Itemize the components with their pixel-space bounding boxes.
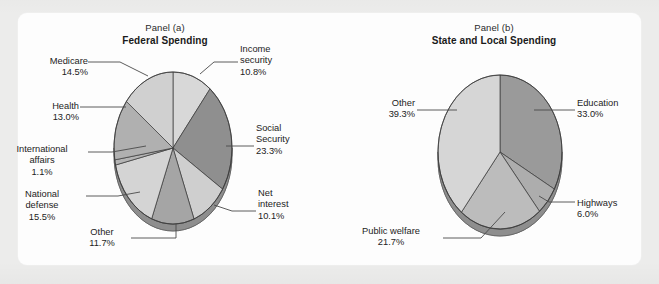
label-social-security: Social Security 23.3%: [256, 123, 328, 157]
label-income-security: Income security 10.8%: [240, 44, 326, 78]
label-education: Education 33.0%: [577, 98, 657, 121]
label-international-affairs: International affairs 1.1%: [0, 144, 86, 178]
label-other-state: Other 39.3%: [343, 98, 415, 121]
label-public-welfare: Public welfare 21.7%: [339, 226, 443, 249]
label-net-interest: Net interest 10.1%: [258, 188, 328, 222]
panel-state-local-spending: Panel (b) State and Local Spending Other…: [329, 0, 659, 284]
label-national-defense: National defense 15.5%: [0, 189, 84, 223]
label-highways: Highways 6.0%: [577, 198, 657, 221]
label-other-federal: Other 11.7%: [74, 227, 130, 250]
panel-federal-spending: Panel (a) Federal Spending Medicare 14.5…: [0, 0, 330, 284]
label-medicare: Medicare 14.5%: [2, 56, 88, 79]
label-health: Health 13.0%: [2, 101, 79, 124]
